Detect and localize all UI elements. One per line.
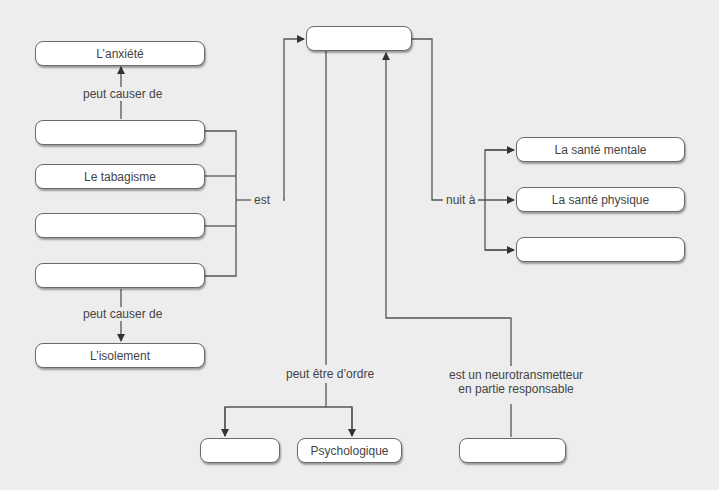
node-anxiety: L’anxiété xyxy=(35,41,205,66)
node-smoking: Le tabagisme xyxy=(35,164,205,189)
node-physical-health: La santé physique xyxy=(516,187,685,212)
node-psychological: Psychologique xyxy=(297,438,402,463)
node-isolation: L’isolement xyxy=(35,343,205,368)
node-mental-health: La santé mentale xyxy=(516,137,685,162)
node-blank-bottom-left[interactable] xyxy=(200,438,280,463)
link-label-causes-isolation: peut causer de xyxy=(80,307,165,321)
node-center-top[interactable] xyxy=(306,26,412,51)
link-label-can-be-of-type: peut être d’ordre xyxy=(283,367,377,381)
link-label-neurotransmitter: est un neurotransmetteur en partie respo… xyxy=(446,368,586,396)
node-blank-left-1[interactable] xyxy=(35,120,205,145)
link-label-neurotransmitter-line2: en partie responsable xyxy=(449,382,583,396)
link-label-neurotransmitter-line1: est un neurotransmetteur xyxy=(449,368,583,382)
link-label-harms: nuit à xyxy=(443,193,478,207)
node-blank-right[interactable] xyxy=(516,237,685,262)
link-label-is: est xyxy=(251,193,273,207)
node-blank-bottom-right[interactable] xyxy=(459,438,566,463)
node-blank-left-3[interactable] xyxy=(35,263,205,288)
node-blank-left-2[interactable] xyxy=(35,213,205,238)
link-label-causes-anxiety: peut causer de xyxy=(80,87,165,101)
